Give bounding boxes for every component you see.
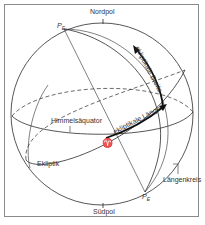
ecliptic-label: Ekliptik xyxy=(37,160,59,167)
vernal-point-symbol: ♈ xyxy=(102,139,113,148)
north-pole-label: Nordpol xyxy=(90,8,115,15)
meridian-label: Längenkreis xyxy=(163,176,201,183)
pole-bottom-label: PE xyxy=(142,193,150,202)
south-pole-label: Südpol xyxy=(93,208,115,215)
great-circle-left xyxy=(28,85,48,168)
celestial-equator-label: Himmelsäquator xyxy=(51,117,102,124)
celestial-sphere-diagram xyxy=(0,0,205,225)
pole-top-label: PE xyxy=(57,22,65,31)
hour-circle-left xyxy=(30,29,64,160)
celestial-equator-front xyxy=(12,112,193,134)
